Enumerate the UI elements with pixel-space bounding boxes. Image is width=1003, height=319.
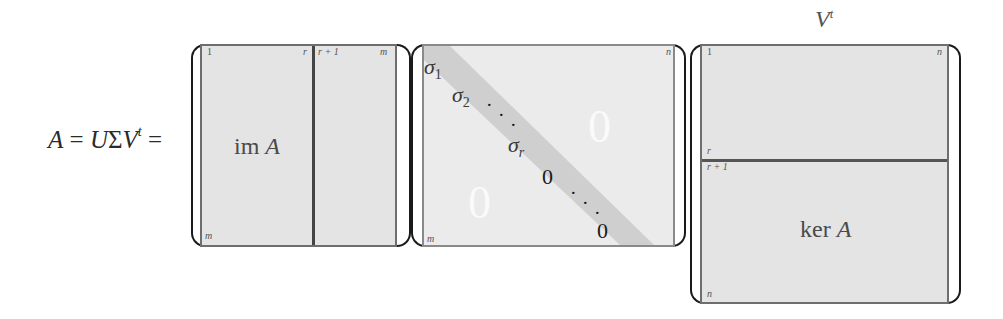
sigma-glyph: σ [424,54,435,79]
matrix-u-symbol: U [90,126,108,153]
u-col-index-m: m [380,46,387,57]
matrix-u: 1 r r + 1 m m im A [200,44,397,247]
sigma-sub: 2 [463,95,470,110]
u-col-index-r-plus-1: r + 1 [318,46,339,57]
ker-label-text: ker [800,216,831,242]
im-label-var: A [265,133,280,159]
matrix-sigma: n m σ1 σ2 · · · σr 0 · · · 0 0 0 [422,44,675,247]
matrix-v-symbol: V [123,126,138,153]
diagonal-zero-1: 0 [542,164,553,190]
diagonal-band [424,46,675,247]
v-title-sup: t [830,6,834,21]
im-label-text: im [234,133,259,159]
v-row-divider [702,159,947,162]
sigma-1: σ1 [424,54,442,83]
u-col-index-1: 1 [207,46,212,57]
sigma-2: σ2 [452,82,470,111]
matrix-u-right-paren [395,44,411,247]
v-col-index-n: n [937,46,942,57]
v-row-index-r: r [707,145,711,156]
lower-zero-block: 0 [468,176,491,229]
equals-sign: = [70,126,84,153]
matrix-sigma-symbol: Σ [108,126,123,153]
sigma-sub: 1 [435,67,442,82]
v-title-glyph: V [815,6,830,32]
equals-sign-2: = [148,126,162,153]
sigma-col-index-n: n [666,46,671,57]
v-row-index-n: n [707,288,712,299]
upper-zero-block: 0 [588,100,611,153]
im-a-label: im A [234,133,280,160]
svd-equation: A = UΣVt = [48,126,162,154]
sigma-glyph: σ [508,132,519,157]
u-column-divider [312,46,315,245]
diagonal-zero-2: 0 [597,218,608,244]
sigma-sub: r [519,145,524,160]
transpose-superscript: t [138,124,142,139]
v-row-index-1: 1 [707,46,712,57]
ker-a-label: ker A [800,216,851,243]
sigma-glyph: σ [452,82,463,107]
sigma-r: σr [508,132,524,161]
ker-label-var: A [837,216,852,242]
matrix-v-transpose: 1 n r r + 1 n ker A [700,44,949,304]
matrix-a-symbol: A [48,126,63,153]
v-row-index-r-plus-1: r + 1 [707,161,728,172]
u-row-index-m: m [205,230,212,241]
v-transpose-title: Vt [815,6,833,33]
u-col-index-r: r [303,46,307,57]
sigma-row-index-m: m [427,233,434,244]
